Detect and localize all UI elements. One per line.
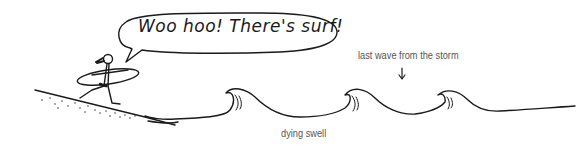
- sand-dots: [41, 97, 135, 118]
- ocean-line: [145, 89, 575, 119]
- surfer-figure: [76, 55, 139, 105]
- last-wave-label: last wave from the storm: [358, 49, 459, 61]
- beach-slope: [35, 90, 175, 125]
- arrow-down-icon: [399, 68, 405, 79]
- dying-swell-label: dying swell: [281, 127, 326, 139]
- speech-bubble-text: Woo hoo! There's surf!: [138, 16, 343, 36]
- surf-illustration: Woo hoo! There's surf! last wave from th…: [0, 0, 580, 148]
